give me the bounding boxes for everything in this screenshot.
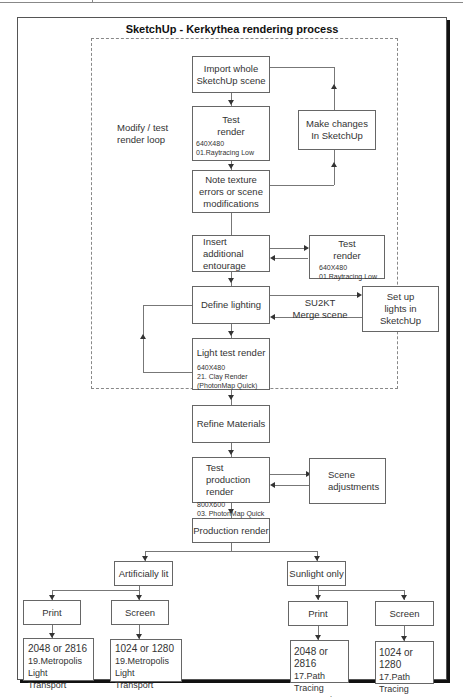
arrow-up-icon (331, 162, 337, 167)
arrow-down-icon (228, 395, 234, 400)
edge-note-make (270, 185, 334, 186)
edge-loop-lighttest (143, 372, 192, 373)
arrow-up-icon (331, 84, 337, 89)
edge-testprod-scene (270, 474, 310, 475)
node-test-production-render: Test production render 800X600 03. Photo… (192, 457, 270, 503)
edge-production-split (231, 543, 232, 551)
arrow-down-icon (228, 509, 234, 514)
arrow-down-icon (228, 450, 234, 455)
node-sun-screen: Screen (375, 601, 434, 626)
arrow-up-icon (140, 334, 146, 339)
arrow-down-icon (228, 331, 234, 336)
node-make-changes: Make changes In SketchUp (298, 110, 376, 150)
edge-label-su2kt: SU2KT Merge scene (282, 297, 358, 321)
arrow-down-icon (228, 278, 234, 283)
arrow-left-icon (270, 314, 275, 320)
diagram-title: SketchUp - Kerkythea rendering process (17, 23, 447, 35)
edge-insert-test2 (270, 248, 308, 249)
edge-loop-define (143, 305, 192, 306)
node-light-test-render: Light test render 640X480 21. Clay Rende… (192, 338, 270, 390)
arrow-down-icon (228, 100, 234, 105)
arrow-down-icon (315, 595, 321, 600)
node-set-up-lights: Set up lights in SketchUp (362, 286, 439, 332)
node-art-screen-output: 1024 or 1280 19.Metropolis Light Transpo… (110, 639, 182, 682)
node-test-render-2: Test render 640X480 01.Raytracing Low (309, 235, 385, 279)
page-header-tick (92, 0, 93, 3)
edge-note-insert (231, 213, 232, 235)
arrow-down-icon (401, 595, 407, 600)
edge-test2-insert (272, 258, 308, 259)
edge-note-make-v (334, 150, 335, 185)
node-production-render: Production render (192, 518, 270, 543)
node-art-screen: Screen (111, 600, 169, 625)
loop-label: Modify / test render loop (117, 122, 168, 146)
edge-production-branch (145, 551, 317, 552)
node-artificially-lit: Artificially lit (114, 561, 173, 586)
edge-loop-top (270, 67, 334, 68)
node-insert-entourage: Insert additional entourage (192, 235, 270, 272)
node-define-lighting: Define lighting (192, 286, 270, 324)
node-note-texture: Note texture errors or scene modificatio… (192, 170, 270, 213)
node-scene-adjustments: Scene adjustments (309, 458, 386, 504)
node-import-scene: Import whole SketchUp scene (192, 56, 270, 93)
page-header-rule (0, 2, 463, 3)
arrow-left-icon (270, 255, 275, 261)
node-art-print-output: 2048 or 2816 19.Metropolis Light Transpo… (23, 638, 94, 681)
node-refine-materials: Refine Materials (192, 405, 270, 443)
node-sun-print-output: 2048 or 2816 17.Path Tracing Progressive (290, 640, 349, 683)
arrow-down-icon (228, 164, 234, 169)
node-sunlight-only: Sunlight only (287, 561, 346, 586)
edge-define-setup (270, 295, 360, 296)
edge-sun-branch (318, 590, 404, 591)
node-art-print: Print (23, 600, 81, 625)
edge-scene-testprod (272, 485, 310, 486)
node-test-render-1: Test render 640X480 01.Raytracing Low (192, 106, 270, 161)
node-sun-screen-output: 1024 or 1280 17.Path Tracing Progressive (375, 641, 434, 684)
node-sun-print: Print (288, 601, 348, 626)
edge-art-branch (52, 590, 140, 591)
arrow-left-icon (270, 482, 275, 488)
